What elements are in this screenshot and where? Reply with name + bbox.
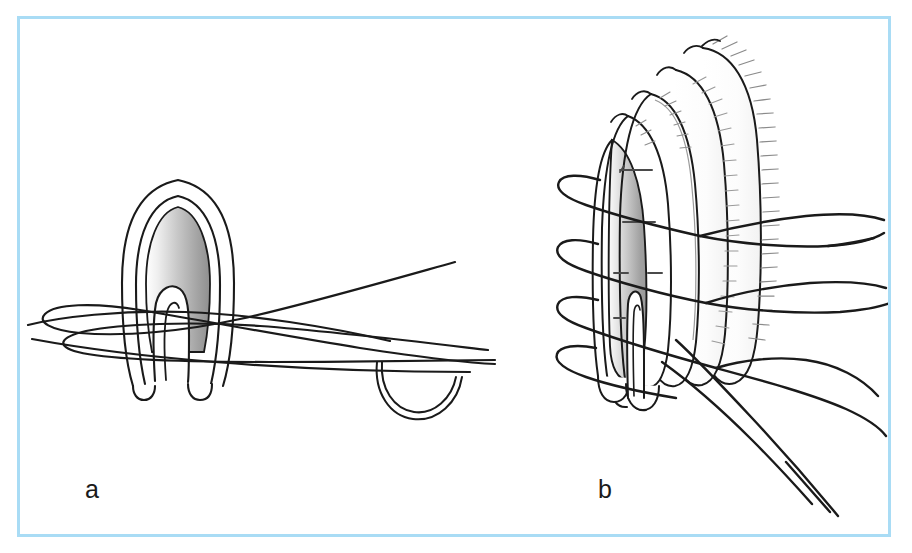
figure-illustration (0, 0, 912, 553)
panel-label-b: b (598, 477, 612, 502)
panel-a-suture-threads (28, 262, 495, 372)
panel-b-suture-tail-long-3 (786, 462, 830, 512)
panel-b-suture-tail-long-2 (662, 362, 812, 504)
panel-b-suture-tail-1b (828, 238, 874, 246)
panel-a-wall-tip-right (188, 384, 212, 400)
panel-a-inner-fold-loop (154, 286, 189, 382)
panel-b-illustration (557, 36, 890, 516)
panel-a-illustration (28, 180, 495, 419)
panel-label-a: a (85, 477, 99, 502)
figure-root: a b (0, 0, 912, 553)
panel-a-wall-tip-left (133, 386, 155, 400)
